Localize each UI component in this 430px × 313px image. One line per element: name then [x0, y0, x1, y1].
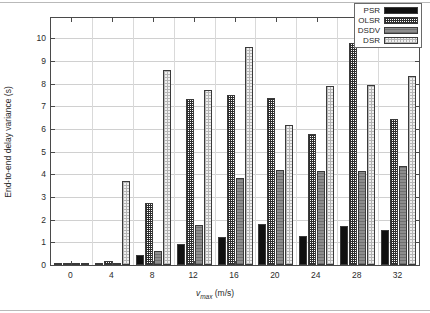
y-axis-tick: [415, 61, 420, 62]
x-axis-title: vmax (m/s): [0, 288, 430, 300]
legend-swatch-dsdv: [384, 27, 418, 34]
x-axis-tick: [71, 17, 72, 22]
x-axis-tick-label: 20: [255, 270, 295, 280]
y-axis-tick: [50, 220, 55, 221]
x-axis-tick: [71, 261, 72, 266]
x-axis-tick-label: 12: [173, 270, 213, 280]
x-axis-tick: [317, 261, 318, 266]
chart-legend: PSROLSRDSDVDSR: [354, 3, 422, 48]
y-axis-tick-label: 8: [24, 79, 46, 89]
y-axis-tick: [50, 129, 55, 130]
y-axis-tick-label: 5: [24, 147, 46, 157]
x-axis-tick: [358, 261, 359, 266]
legend-label: PSR: [364, 6, 380, 15]
y-axis-tick: [50, 265, 55, 266]
y-axis-tick: [50, 242, 55, 243]
legend-item-psr: PSR: [358, 6, 418, 15]
plot-area: 012345678910: [50, 17, 420, 266]
legend-label: DSR: [363, 36, 380, 45]
y-axis-tick-label: 0: [24, 260, 46, 270]
x-axis-tick-label: 32: [378, 270, 418, 280]
x-axis-tick: [194, 261, 195, 266]
y-axis-tick-label: 4: [24, 169, 46, 179]
y-axis-tick: [415, 174, 420, 175]
y-axis-tick-label: 6: [24, 124, 46, 134]
legend-swatch-dsr: [384, 37, 418, 44]
x-axis-tick: [317, 17, 318, 22]
y-axis-title: End-to-end delay variance (s): [3, 86, 13, 198]
y-axis-tick: [415, 197, 420, 198]
y-axis-tick-label: 1: [24, 237, 46, 247]
x-axis-tick: [235, 261, 236, 266]
y-axis-tick: [50, 174, 55, 175]
y-axis-tick: [50, 197, 55, 198]
x-axis-tick-label: 4: [91, 270, 131, 280]
y-axis-tick: [50, 61, 55, 62]
tick-layer: 012345678910: [51, 18, 419, 265]
y-axis-tick: [415, 220, 420, 221]
y-axis-tick: [50, 84, 55, 85]
y-axis-tick: [50, 106, 55, 107]
x-axis-tick: [399, 261, 400, 266]
x-axis-tick: [276, 17, 277, 22]
x-axis-tick: [235, 17, 236, 22]
chart-figure: End-to-end delay variance (s) vmax (m/s)…: [0, 0, 430, 313]
y-axis-tick-label: 10: [24, 33, 46, 43]
legend-swatch-psr: [384, 7, 418, 14]
x-axis-tick-label: 24: [296, 270, 336, 280]
x-axis-tick: [153, 261, 154, 266]
legend-item-dsr: DSR: [358, 36, 418, 45]
x-axis-tick: [112, 261, 113, 266]
x-axis-tick-label: 8: [132, 270, 172, 280]
y-axis-tick: [50, 152, 55, 153]
y-axis-tick: [415, 265, 420, 266]
y-axis-tick-label: 9: [24, 56, 46, 66]
x-axis-title-unit: (m/s): [212, 288, 234, 298]
y-axis-tick-label: 7: [24, 101, 46, 111]
y-axis-tick: [50, 38, 55, 39]
x-axis-tick: [153, 17, 154, 22]
x-axis-tick: [112, 17, 113, 22]
x-axis-title-subscript: max: [200, 293, 212, 300]
x-axis-tick: [194, 17, 195, 22]
y-axis-tick: [415, 84, 420, 85]
scan-rule-bottom: [0, 310, 430, 311]
y-axis-tick: [415, 242, 420, 243]
legend-label: DSDV: [358, 26, 380, 35]
legend-label: OLSR: [358, 16, 380, 25]
x-axis-tick: [276, 261, 277, 266]
legend-item-olsr: OLSR: [358, 16, 418, 25]
y-axis-tick: [415, 129, 420, 130]
legend-item-dsdv: DSDV: [358, 26, 418, 35]
y-axis-tick-label: 3: [24, 192, 46, 202]
legend-swatch-olsr: [384, 17, 418, 24]
x-axis-tick-label: 16: [214, 270, 254, 280]
x-axis-tick-label: 0: [50, 270, 90, 280]
y-axis-tick-label: 2: [24, 215, 46, 225]
y-axis-tick: [415, 152, 420, 153]
y-axis-tick: [415, 106, 420, 107]
x-axis-tick-label: 28: [337, 270, 377, 280]
